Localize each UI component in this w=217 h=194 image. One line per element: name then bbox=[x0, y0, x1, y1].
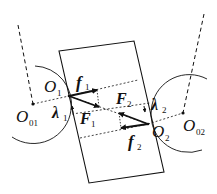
point-O2 bbox=[147, 123, 150, 126]
arrow-f2 bbox=[121, 124, 148, 128]
svg-text:f: f bbox=[128, 132, 136, 151]
arrow-F2 bbox=[119, 113, 148, 124]
point-O02 bbox=[181, 111, 184, 114]
svg-text:O: O bbox=[44, 77, 56, 96]
label-F1: F 1 bbox=[79, 110, 96, 129]
label-O01: O 01 bbox=[16, 107, 38, 128]
left-axis-dashed bbox=[18, 25, 33, 104]
block-rectangle bbox=[59, 41, 164, 183]
f2-construction bbox=[119, 113, 121, 128]
svg-text:1: 1 bbox=[85, 82, 90, 92]
svg-text:2: 2 bbox=[137, 142, 142, 152]
arrow-F1 bbox=[69, 96, 99, 107]
right-axis-dashed bbox=[183, 14, 204, 113]
svg-text:02: 02 bbox=[196, 127, 205, 137]
left-roller-arc bbox=[12, 66, 71, 144]
svg-text:1: 1 bbox=[63, 113, 68, 123]
svg-text:F: F bbox=[115, 90, 127, 107]
arrow-lambda1 bbox=[72, 106, 73, 113]
svg-text:F: F bbox=[79, 110, 91, 127]
label-f2: f 2 bbox=[128, 132, 142, 152]
label-F2: F 2 bbox=[115, 90, 132, 109]
label-lambda1: λ 1 bbox=[51, 104, 68, 123]
svg-text:2: 2 bbox=[162, 105, 167, 115]
point-O01 bbox=[31, 102, 34, 105]
svg-text:f: f bbox=[76, 73, 84, 92]
f1-construction bbox=[97, 90, 99, 107]
svg-text:O: O bbox=[183, 116, 195, 135]
arrow-lambda2 bbox=[144, 106, 145, 112]
label-O2: O 2 bbox=[152, 122, 170, 143]
svg-text:01: 01 bbox=[29, 118, 38, 128]
force-diagram: O 1 O 01 f 1 λ 1 F 1 F 2 λ 2 O 2 f 2 O 0… bbox=[0, 0, 217, 194]
point-O1 bbox=[68, 95, 71, 98]
label-O02: O 02 bbox=[183, 116, 205, 137]
svg-text:λ: λ bbox=[150, 96, 158, 113]
svg-text:1: 1 bbox=[91, 119, 96, 129]
svg-text:λ: λ bbox=[51, 104, 59, 121]
svg-text:2: 2 bbox=[127, 99, 132, 109]
arrow-f1 bbox=[69, 90, 97, 96]
svg-text:2: 2 bbox=[165, 133, 170, 143]
label-lambda2: λ 2 bbox=[150, 96, 167, 115]
svg-text:O: O bbox=[152, 122, 164, 141]
line-O01-O1 bbox=[33, 96, 69, 104]
label-O1: O 1 bbox=[44, 77, 62, 98]
label-f1: f 1 bbox=[76, 73, 90, 92]
svg-text:1: 1 bbox=[57, 88, 62, 98]
svg-text:O: O bbox=[16, 107, 28, 126]
